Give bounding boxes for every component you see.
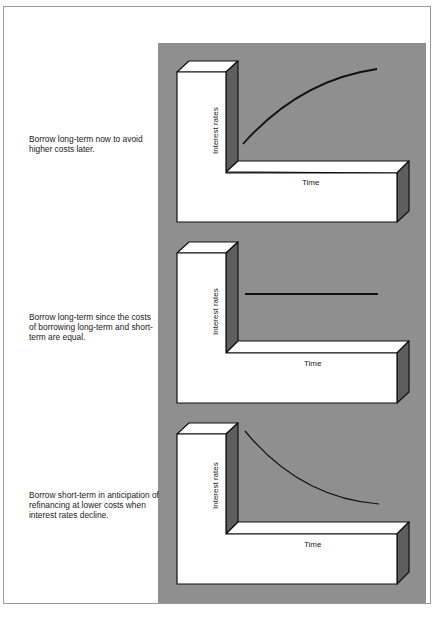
- y-axis-label-declining: Interest rates: [211, 462, 220, 509]
- rising-rate-curve: [243, 69, 377, 144]
- y-axis-label-rising: Interest rates: [211, 107, 220, 154]
- diagram-graphics: Interest rates Time Interest rates Time …: [0, 0, 439, 618]
- y-axis-label-flat: Interest rates: [211, 288, 220, 335]
- x-axis-label-flat: Time: [304, 359, 322, 368]
- declining-rate-curve: [245, 431, 379, 504]
- x-axis-label-rising: Time: [302, 178, 320, 187]
- x-axis-label-declining: Time: [304, 540, 322, 549]
